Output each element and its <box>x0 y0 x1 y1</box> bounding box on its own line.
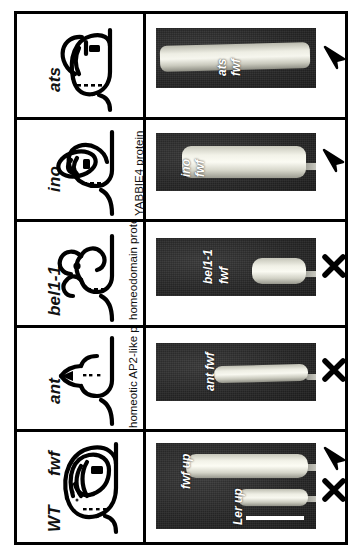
photo-cell-bel1-1: bel1-1 fwf <box>146 222 345 325</box>
photo-cell-wt: fwf up Ler up <box>146 432 345 542</box>
specimen-body-fwf <box>186 454 308 478</box>
arrowhead-marker-ino <box>321 147 345 173</box>
x-marker-wt <box>322 478 345 506</box>
panel-bel1-1: bel1-1 homeodomain protein <box>17 222 345 328</box>
photo-label-bel1-1-genotype: bel1-1 <box>202 249 215 284</box>
panel-ino: ino YABBIE4 protein <box>17 120 345 222</box>
specimen-body-ler <box>238 489 308 506</box>
panel-ant: ant homeotic AP2-like protein <box>17 328 345 432</box>
panel-ats: ats <box>17 14 345 120</box>
photo-label-ats-allele: fwf <box>230 59 243 76</box>
photo-label-ats-genotype: ats <box>216 59 229 76</box>
photo-label-fwf-up: fwf up <box>180 454 193 489</box>
photo-cell-ant: ant fwf <box>146 328 345 429</box>
ino-ovule-diagram <box>17 120 143 219</box>
photo-label-ino-genotype: ino <box>180 159 193 177</box>
ats-ovule-diagram <box>17 14 143 117</box>
panel-wt: WT fwf <box>17 432 345 542</box>
diagram-cell-ant: ant homeotic AP2-like protein <box>17 328 146 429</box>
arrowhead-marker-wt <box>322 445 345 471</box>
micrograph-ats: ats fwf <box>156 28 316 88</box>
micrograph-bel1-1: bel1-1 fwf <box>156 238 316 296</box>
plate-frame: ats <box>14 11 348 545</box>
photo-cell-ats: ats fwf <box>146 14 345 117</box>
bel1-ovule-diagram <box>17 222 143 325</box>
diagram-cell-wt: WT fwf <box>17 432 146 542</box>
micrograph-wt: fwf up Ler up <box>156 443 316 529</box>
micrograph-ant: ant fwf <box>156 343 316 401</box>
photo-label-bel1-1-allele: fwf <box>218 267 231 284</box>
wt-ovule-diagram <box>17 432 143 542</box>
x-marker-bel1-1 <box>322 254 345 282</box>
micrograph-ino: ino fwf <box>156 133 316 191</box>
figure-plate: ats <box>0 0 362 556</box>
photo-cell-ino: ino fwf <box>146 120 345 219</box>
specimen-body <box>252 258 306 284</box>
diagram-cell-bel1-1: bel1-1 homeodomain protein <box>17 222 146 325</box>
x-marker-ant <box>322 358 345 386</box>
photo-label-ant: ant fwf <box>204 352 217 391</box>
arrowhead-marker-ats <box>322 44 345 70</box>
photo-label-ino-allele: fwf <box>194 160 207 177</box>
diagram-cell-ino: ino YABBIE4 protein <box>17 120 146 219</box>
specimen-body <box>214 364 308 383</box>
diagram-cell-ats: ats <box>17 14 146 117</box>
scale-bar <box>246 516 304 520</box>
photo-label-ler-up: Ler up <box>232 488 245 525</box>
ant-ovule-diagram <box>17 328 143 429</box>
